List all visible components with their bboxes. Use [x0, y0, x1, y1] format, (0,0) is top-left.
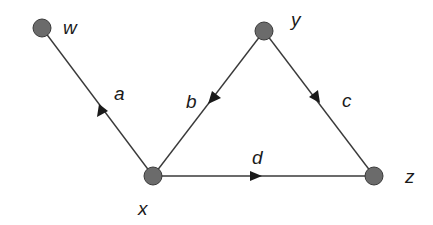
edge-label-b: b	[186, 91, 197, 112]
arrow-b-icon	[208, 91, 221, 104]
edge-d	[153, 171, 374, 181]
node-y	[255, 22, 273, 40]
edge-c	[264, 31, 374, 176]
edge-label-d: d	[252, 147, 264, 168]
node-label-x: x	[137, 198, 149, 219]
node-x	[144, 167, 162, 185]
arrow-d-icon	[250, 171, 262, 181]
edge-label-c: c	[342, 90, 352, 111]
node-w	[33, 19, 51, 37]
edge-b	[153, 31, 264, 176]
arrow-a-icon	[97, 104, 108, 117]
node-label-z: z	[404, 166, 415, 187]
edge-a	[42, 28, 153, 176]
edge-label-a: a	[114, 83, 125, 104]
node-label-w: w	[63, 17, 78, 38]
graph-diagram: w y x z a b c d	[0, 0, 433, 225]
node-label-y: y	[289, 9, 302, 30]
node-z	[365, 167, 383, 185]
